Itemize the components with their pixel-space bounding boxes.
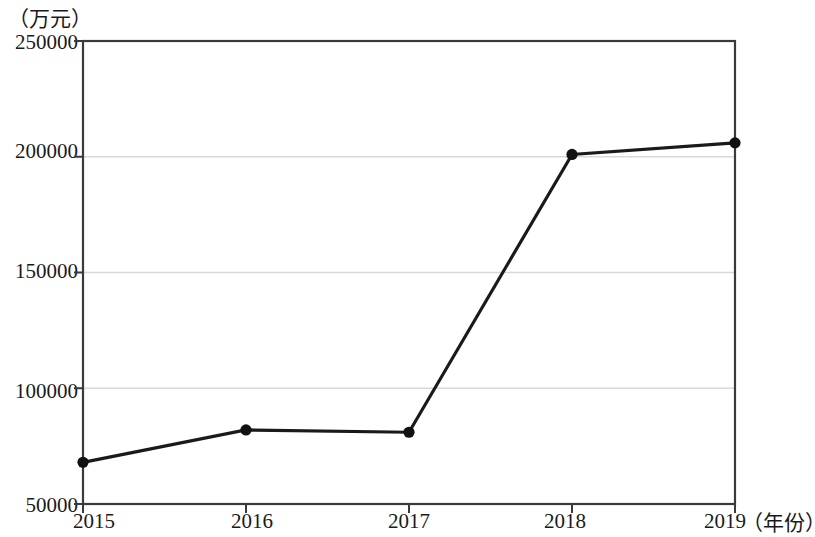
line-chart: （万元） （年份） 250000 200000 150000 100000 50… — [0, 0, 815, 537]
gridlines-group — [83, 157, 735, 389]
data-point-2018 — [566, 149, 577, 160]
data-point-2016 — [240, 424, 251, 435]
data-point-2019 — [729, 137, 740, 148]
data-markers-group — [77, 137, 740, 468]
data-line — [83, 143, 735, 462]
plot-area — [0, 0, 815, 537]
tick-marks-group — [74, 41, 735, 513]
data-point-2017 — [403, 427, 414, 438]
data-point-2015 — [77, 457, 88, 468]
